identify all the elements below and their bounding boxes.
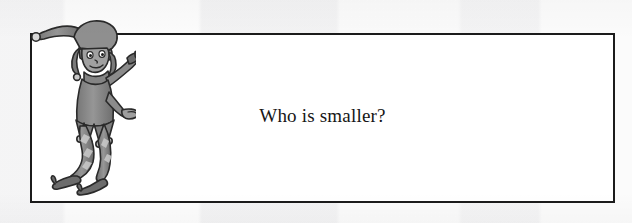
question-frame: Who is smaller? — [30, 33, 615, 203]
scanned-page-background: Who is smaller? — [0, 0, 632, 223]
question-prompt-text: Who is smaller? — [32, 35, 613, 201]
